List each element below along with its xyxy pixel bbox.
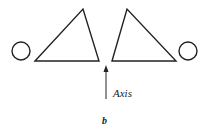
left-triangle — [35, 9, 99, 61]
right-circle — [179, 42, 197, 60]
axis-label: Axis — [112, 87, 132, 99]
right-triangle — [112, 9, 176, 61]
panel-label: b — [102, 115, 107, 126]
symmetry-diagram: Axis b — [0, 0, 209, 127]
left-circle — [12, 42, 30, 60]
axis-arrow-icon — [104, 65, 109, 99]
